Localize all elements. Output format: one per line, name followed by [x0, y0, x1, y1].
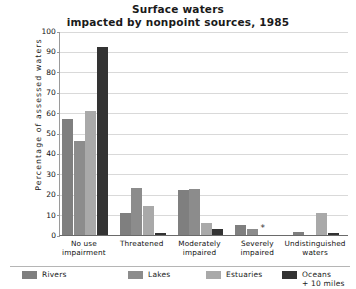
bar [155, 233, 166, 235]
bar [74, 141, 85, 235]
y-axis-tick-label: 60 [34, 110, 56, 118]
y-axis-tick-label: 80 [34, 69, 56, 77]
bar [247, 229, 258, 235]
bar [131, 188, 142, 235]
legend-item: Rivers [22, 270, 67, 279]
legend-swatch [206, 271, 221, 279]
chart-title: Surface waters impacted by nonpoint sour… [0, 3, 356, 28]
x-axis-tick-label-line: waters [280, 249, 350, 258]
bar [235, 225, 246, 235]
y-axis-tick [57, 236, 60, 237]
bar-chart: Surface waters impacted by nonpoint sour… [0, 0, 356, 289]
bar [178, 190, 189, 235]
legend-swatch [22, 271, 37, 279]
plot-area: * [59, 32, 348, 236]
bar [316, 213, 327, 235]
bar-group [120, 32, 166, 235]
legend-label: Estuaries [226, 270, 262, 279]
x-axis-tick-label-line: impairment [49, 249, 119, 258]
annotation-asterisk: * [261, 225, 266, 231]
y-axis-tick-labels: 0102030405060708090100 [30, 32, 56, 236]
y-axis-tick-label: 70 [34, 89, 56, 97]
y-axis-tick-label: 40 [34, 150, 56, 158]
legend-sublabel: + 10 miles [302, 279, 345, 288]
legend-label: Lakes [148, 270, 170, 279]
bar [85, 111, 96, 235]
x-axis-tick-labels: No useimpairmentThreatenedModeratelyimpa… [59, 240, 348, 262]
y-axis-tick-label: 10 [34, 212, 56, 220]
bar [212, 229, 223, 235]
bar [62, 119, 73, 235]
bar [201, 223, 212, 235]
legend-label: Oceans [302, 270, 345, 279]
bar [328, 233, 339, 235]
bar [120, 213, 131, 235]
y-axis-label-wrapper: Percentage of assessed waters [12, 60, 26, 210]
bar-group [178, 32, 224, 235]
y-axis-tick-label: 30 [34, 171, 56, 179]
y-axis-tick-label: 50 [34, 130, 56, 138]
bar-group [235, 32, 281, 235]
legend-item: Oceans+ 10 miles [282, 270, 345, 288]
y-axis-tick-label: 0 [34, 232, 56, 240]
bar [293, 232, 304, 235]
bar-group [62, 32, 108, 235]
x-axis-tick-label: Undistinguishedwaters [280, 240, 350, 257]
bar [97, 47, 108, 235]
y-axis-tick-label: 90 [34, 48, 56, 56]
chart-legend: RiversLakesEstuariesOceans+ 10 miles [10, 266, 350, 287]
legend-item: Lakes [128, 270, 170, 279]
legend-label: Rivers [42, 270, 67, 279]
legend-swatch [128, 271, 143, 279]
bars-container: * [60, 32, 348, 235]
legend-item: Estuaries [206, 270, 262, 279]
y-axis-tick-label: 20 [34, 191, 56, 199]
legend-swatch [282, 271, 297, 279]
y-axis-tick-label: 100 [34, 28, 56, 36]
bar-group [293, 32, 339, 235]
bar [143, 206, 154, 235]
bar [189, 189, 200, 235]
chart-title-line-1: Surface waters [0, 3, 356, 16]
